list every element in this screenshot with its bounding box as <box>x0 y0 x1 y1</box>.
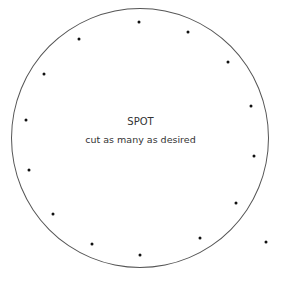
spot-diagram: SPOT cut as many as desired <box>0 0 281 286</box>
perimeter-dot <box>253 155 256 158</box>
perimeter-dot <box>227 61 230 64</box>
perimeter-dot <box>250 105 253 108</box>
perimeter-dot <box>78 38 81 41</box>
perimeter-dot <box>52 213 55 216</box>
perimeter-dot <box>91 243 94 246</box>
perimeter-dot <box>235 202 238 205</box>
spot-subtitle: cut as many as desired <box>0 134 281 145</box>
perimeter-dot <box>187 31 190 34</box>
perimeter-dot <box>199 237 202 240</box>
spot-title: SPOT <box>0 116 281 127</box>
perimeter-dot <box>265 241 268 244</box>
perimeter-dot <box>138 21 141 24</box>
perimeter-dot <box>28 169 31 172</box>
perimeter-dot <box>43 73 46 76</box>
perimeter-dot <box>139 254 142 257</box>
